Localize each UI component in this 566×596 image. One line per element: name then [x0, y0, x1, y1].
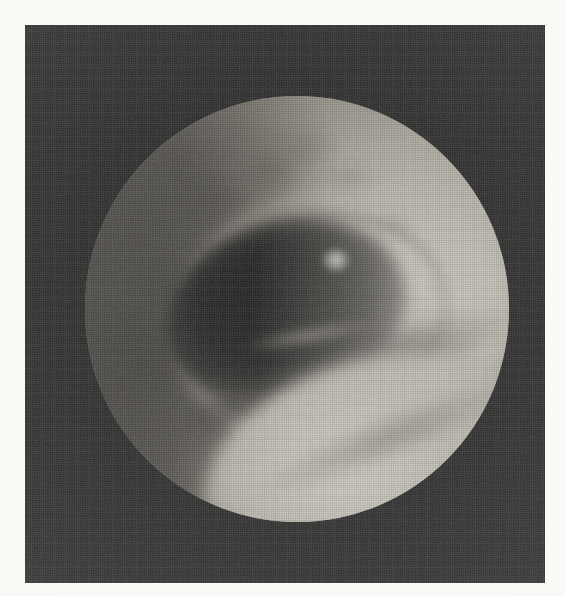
circular-endoscope-field [85, 96, 509, 522]
caption-area [0, 583, 566, 596]
figure-root [0, 0, 566, 596]
photographic-plate [25, 25, 545, 583]
field-edge-vignette [85, 96, 509, 522]
